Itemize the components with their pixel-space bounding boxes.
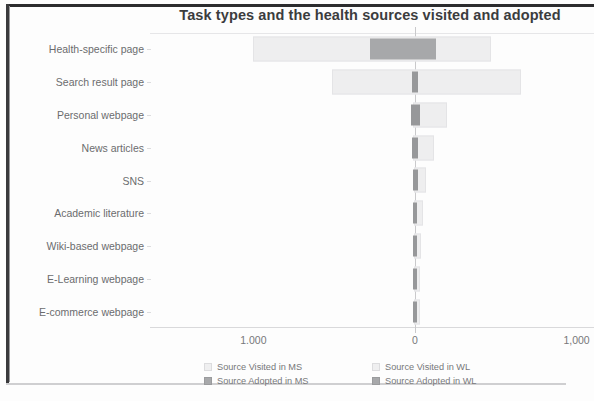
y-axis-labels: Health-specific pageSearch result pagePe… [8, 33, 144, 328]
legend-label: Source Adopted in WL [385, 376, 476, 386]
bar-row [150, 262, 594, 295]
y-axis-tick-label: Wiki-based webpage [9, 240, 144, 252]
bar-row [150, 164, 594, 197]
chart-legend: Source Visited in MSSource Visited in WL… [150, 360, 594, 392]
legend-label: Source Adopted in MS [217, 376, 308, 386]
bar-row [150, 99, 594, 132]
x-axis-tick-label: 0 [412, 334, 418, 346]
legend-item[interactable]: Source Adopted in MS [204, 374, 372, 388]
bar-source-visited [332, 70, 520, 95]
legend-item[interactable]: Source Visited in MS [204, 360, 372, 374]
y-axis-tick-label: Academic literature [9, 207, 144, 219]
x-axis: 1.00001,000 [150, 328, 594, 354]
y-axis-tick-label: Health-specific page [9, 43, 144, 55]
bar-source-adopted [413, 203, 417, 224]
bar-row [150, 131, 594, 164]
bar-source-adopted [413, 236, 417, 257]
legend-swatch-adopted-icon [372, 377, 380, 385]
bar-source-adopted [412, 137, 418, 158]
bar-source-adopted [411, 104, 420, 125]
legend-item[interactable]: Source Adopted in WL [372, 374, 540, 388]
bar-row [150, 33, 594, 66]
legend-swatch-visited-icon [204, 363, 212, 371]
chart-title: Task types and the health sources visite… [150, 7, 590, 23]
y-axis-tick-label: Personal webpage [9, 109, 144, 121]
y-axis-tick-label: Search result page [9, 76, 144, 88]
legend-label: Source Visited in MS [217, 362, 302, 372]
bar-source-adopted [370, 39, 437, 60]
bar-row [150, 230, 594, 263]
y-axis-tick-label: SNS [9, 175, 144, 187]
bar-source-adopted [413, 301, 417, 322]
y-axis-tick-label: News articles [9, 142, 144, 154]
bar-row [150, 295, 594, 328]
bar-source-adopted [413, 170, 418, 191]
x-axis-tick-label: 1.000 [240, 334, 266, 346]
bar-row [150, 66, 594, 99]
bar-row [150, 197, 594, 230]
bar-source-adopted [413, 268, 417, 289]
bar-source-adopted [412, 72, 418, 93]
legend-swatch-adopted-icon [204, 377, 212, 385]
figure-container: Task types and the health sources visite… [0, 0, 594, 401]
legend-swatch-visited-icon [372, 363, 380, 371]
y-axis-tick-label: E-Learning webpage [9, 273, 144, 285]
plot-area [150, 33, 594, 328]
legend-label: Source Visited in WL [385, 362, 470, 372]
y-axis-tick-label: E-commerce webpage [9, 306, 144, 318]
legend-item[interactable]: Source Visited in WL [372, 360, 540, 374]
x-axis-tick-label: 1,000 [563, 334, 589, 346]
